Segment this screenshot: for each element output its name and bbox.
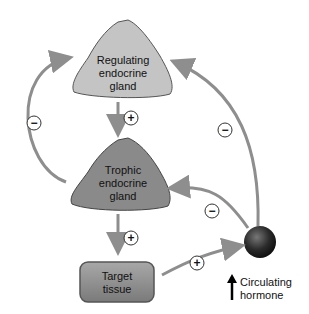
sign-target-hormone: + (193, 256, 200, 270)
sign-reg-trophic: + (127, 111, 134, 125)
sign-hormone-reg: − (221, 123, 228, 137)
trophic-gland-label: Trophic endocrine gland (88, 164, 158, 203)
target-tissue-label: Target tissue (80, 270, 154, 296)
up-arrow-icon (227, 274, 237, 300)
circulating-hormone-label: Circulating hormone (240, 276, 309, 302)
sign-hormone-trophic: − (208, 204, 215, 218)
regulating-gland-label: Regulating endocrine gland (88, 54, 158, 93)
sign-trophic-target: + (127, 231, 134, 245)
sign-trophic-reg: − (30, 116, 37, 130)
diagram-canvas: + + + − − − (0, 0, 309, 314)
hormone-ball (244, 226, 276, 258)
